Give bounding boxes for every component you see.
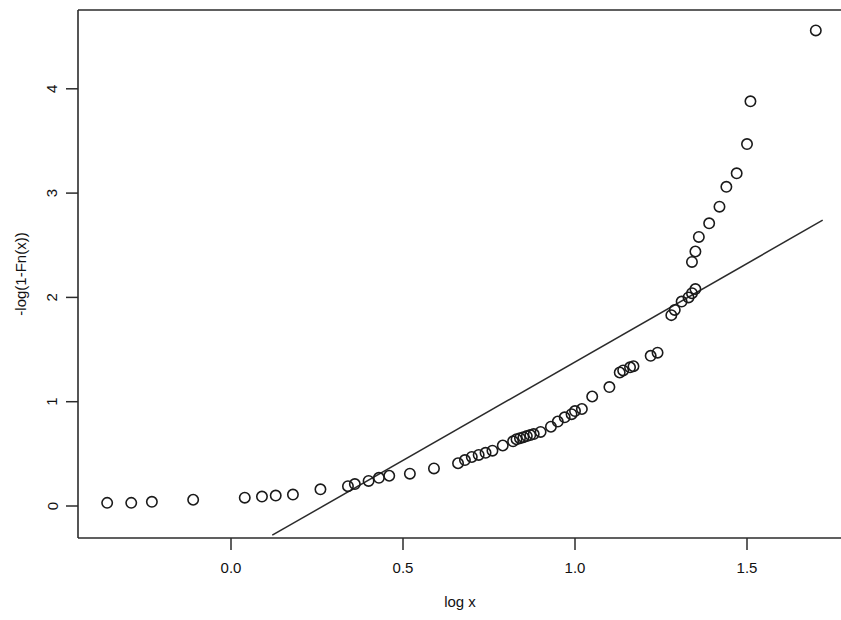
data-point [429, 463, 439, 473]
data-point [587, 391, 597, 401]
x-tick-label: 1.5 [737, 559, 758, 576]
data-point [604, 382, 614, 392]
data-point [721, 182, 731, 192]
data-point [363, 476, 373, 486]
data-point [102, 498, 112, 508]
y-axis-ticks [66, 89, 78, 506]
data-point [745, 96, 755, 106]
data-point [288, 489, 298, 499]
data-point [577, 404, 587, 414]
data-point [498, 440, 508, 450]
data-point [690, 246, 700, 256]
x-axis-ticks [231, 538, 747, 550]
data-point [343, 481, 353, 491]
x-tick-label: 1.0 [565, 559, 586, 576]
data-point [240, 492, 250, 502]
data-point-group [102, 25, 821, 508]
data-point [188, 495, 198, 505]
x-tick-label: 0.5 [393, 559, 414, 576]
y-tick-label: 2 [44, 293, 61, 301]
plot-canvas: 0.00.51.01.5 01234 log x -log(1-Fn(x)) [0, 0, 841, 620]
x-tick-label: 0.0 [221, 559, 242, 576]
data-point [714, 201, 724, 211]
data-point [473, 450, 483, 460]
data-point [126, 498, 136, 508]
data-point [487, 446, 497, 456]
data-point [704, 218, 714, 228]
data-point [811, 25, 821, 35]
data-point [315, 484, 325, 494]
data-point [147, 497, 157, 507]
y-tick-label: 4 [44, 85, 61, 93]
data-point [731, 168, 741, 178]
y-tick-label: 0 [44, 502, 61, 510]
data-point [405, 468, 415, 478]
data-point [257, 491, 267, 501]
data-point [694, 232, 704, 242]
data-point [742, 139, 752, 149]
y-axis-tick-labels: 01234 [44, 85, 61, 511]
fitted-reference-line [272, 220, 822, 535]
data-point [384, 471, 394, 481]
x-axis-tick-labels: 0.00.51.01.5 [221, 559, 758, 576]
x-axis-label: log x [444, 593, 476, 610]
data-point [480, 448, 490, 458]
data-point [535, 427, 545, 437]
data-point [546, 422, 556, 432]
y-tick-label: 1 [44, 398, 61, 406]
data-point [271, 490, 281, 500]
y-tick-label: 3 [44, 189, 61, 197]
data-point [687, 257, 697, 267]
scatter-plot-figure: 0.00.51.01.5 01234 log x -log(1-Fn(x)) [0, 0, 841, 620]
y-axis-label: -log(1-Fn(x)) [12, 232, 29, 315]
